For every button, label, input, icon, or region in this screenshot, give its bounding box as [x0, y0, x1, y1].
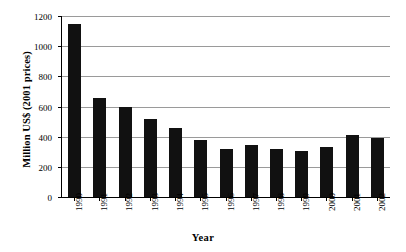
- y-tick-label: 1200: [34, 12, 52, 22]
- x-tick-label: 1991: [99, 193, 109, 211]
- bar[interactable]: [93, 98, 106, 197]
- x-tick-slot: 1999: [289, 200, 314, 234]
- plot-area: 020040060080010001200: [61, 16, 390, 198]
- bar[interactable]: [270, 149, 283, 197]
- bar-slot: [340, 16, 365, 197]
- bar[interactable]: [245, 145, 258, 197]
- x-axis-tick-labels: 1990199119921993199419951996199719981999…: [61, 200, 390, 234]
- bar[interactable]: [169, 128, 182, 197]
- bar-series: [62, 16, 390, 197]
- y-tick-label: 200: [39, 163, 53, 173]
- bar-slot: [163, 16, 188, 197]
- bar-slot: [213, 16, 238, 197]
- bar[interactable]: [320, 147, 333, 197]
- bar[interactable]: [295, 151, 308, 197]
- x-tick-slot: 1997: [238, 200, 263, 234]
- bar-slot: [62, 16, 87, 197]
- x-tick-slot: 1995: [188, 200, 213, 234]
- bar[interactable]: [119, 107, 132, 198]
- y-tick-label: 400: [39, 133, 53, 143]
- bar-chart-figure: Million US$ (2001 prices) 02004006008001…: [0, 0, 406, 252]
- bar-slot: [264, 16, 289, 197]
- bar[interactable]: [144, 119, 157, 197]
- y-tick-label: 1000: [34, 42, 52, 52]
- x-tick-slot: 1990: [61, 200, 86, 234]
- x-tick-slot: 1991: [86, 200, 111, 234]
- bar[interactable]: [194, 140, 207, 197]
- x-tick-label: 2002: [377, 193, 387, 211]
- x-tick-label: 2000: [327, 193, 337, 211]
- x-tick-slot: 2000: [314, 200, 339, 234]
- x-tick-slot: 1993: [137, 200, 162, 234]
- x-tick-slot: 1992: [112, 200, 137, 234]
- x-tick-label: 2001: [352, 193, 362, 211]
- y-tick-label: 600: [39, 103, 53, 113]
- bar[interactable]: [220, 149, 233, 197]
- bar-slot: [87, 16, 112, 197]
- bar-slot: [138, 16, 163, 197]
- bar-slot: [112, 16, 137, 197]
- bar[interactable]: [346, 135, 359, 197]
- x-tick-label: 1999: [301, 193, 311, 211]
- x-tick-label: 1998: [276, 193, 286, 211]
- y-tick-mark: 0: [58, 197, 62, 198]
- x-tick-label: 1992: [124, 193, 134, 211]
- bar-slot: [239, 16, 264, 197]
- x-tick-slot: 2001: [339, 200, 364, 234]
- y-tick-label: 800: [39, 72, 53, 82]
- x-tick-label: 1996: [226, 193, 236, 211]
- y-axis-title: Million US$ (2001 prices): [21, 20, 32, 200]
- bar-slot: [365, 16, 390, 197]
- x-tick-label: 1990: [74, 193, 84, 211]
- x-tick-label: 1997: [251, 193, 261, 211]
- bar[interactable]: [68, 24, 81, 197]
- y-tick-label: 0: [48, 193, 53, 203]
- x-tick-slot: 1996: [213, 200, 238, 234]
- bar-slot: [314, 16, 339, 197]
- x-tick-slot: 2002: [365, 200, 390, 234]
- x-tick-label: 1994: [175, 193, 185, 211]
- x-tick-slot: 1994: [162, 200, 187, 234]
- bar-slot: [289, 16, 314, 197]
- bar-slot: [188, 16, 213, 197]
- x-tick-label: 1995: [200, 193, 210, 211]
- bar[interactable]: [371, 138, 384, 197]
- x-tick-label: 1993: [150, 193, 160, 211]
- x-tick-slot: 1998: [264, 200, 289, 234]
- x-axis-title: Year: [0, 232, 406, 243]
